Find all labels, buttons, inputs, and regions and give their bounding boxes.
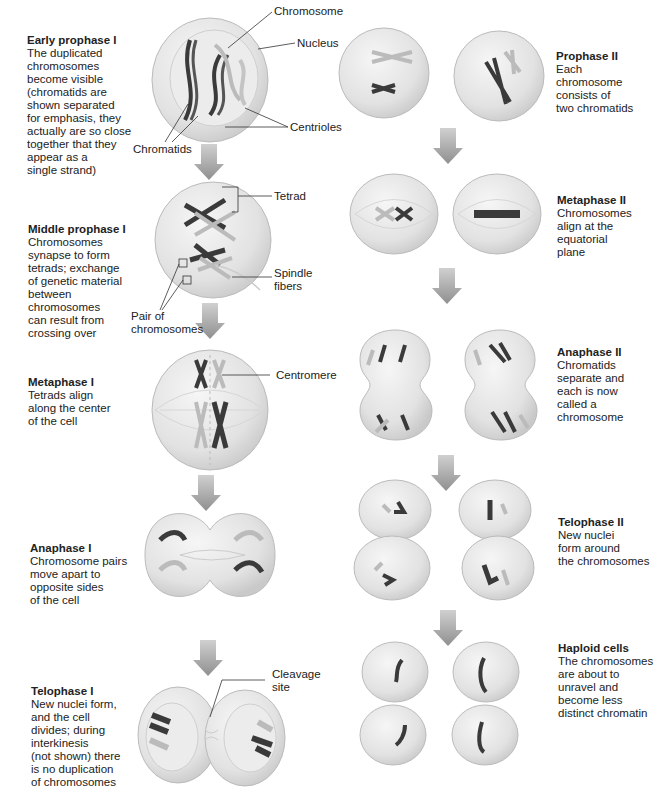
stage-description: The duplicated chromosomes become visibl… [27,47,152,177]
stage-anaphase-2: Anaphase II Chromatids separate and each… [557,346,662,424]
cell-early-prophase-1 [152,18,268,142]
label-chromatids: Chromatids [133,143,192,156]
stage-telophase-1: Telophase I New nuclei form, and the cel… [31,685,156,789]
cell-telophase-2-right [459,480,534,600]
stage-title: Haploid cells [558,642,663,655]
stage-title: Anaphase II [557,346,662,359]
stage-title: Middle prophase I [28,223,153,236]
stage-anaphase-1: Anaphase I Chromosome pairs move apart t… [30,542,155,607]
stage-title: Metaphase II [557,194,662,207]
label-centromere: Centromere [276,369,337,382]
stage-metaphase-1: Metaphase I Tetrads align along the cent… [28,376,153,428]
stage-description: New nuclei form, and the cell divides; d… [31,698,156,789]
label-spindle-fibers: Spindle fibers [274,267,312,293]
stage-metaphase-2: Metaphase II Chromosomes align at the eq… [557,194,662,259]
stage-telophase-2: Telophase II New nuclei form around the … [558,516,663,568]
cell-prophase-2-left [339,28,429,118]
stage-description: New nuclei form around the chromosomes [558,529,663,568]
stage-prophase-2: Prophase II Each chromosome consists of … [556,50,661,115]
cell-anaphase-2-right [465,330,537,440]
cell-telophase-2-left [354,480,431,600]
stage-haploid-cells: Haploid cells The chromosomes are about … [558,642,663,720]
label-chromosome: Chromosome [274,5,343,18]
stage-description: Chromosomes align at the equatorial plan… [557,207,662,259]
stage-description: The chromosomes are about to unravel and… [558,655,663,720]
stage-description: Chromosome pairs move apart to opposite … [30,555,155,607]
label-nucleus: Nucleus [297,37,339,50]
stage-title: Telophase I [31,685,156,698]
cell-metaphase-1 [152,350,268,470]
stage-title: Anaphase I [30,542,155,555]
stage-title: Telophase II [558,516,663,529]
cell-prophase-2-right [454,31,544,121]
label-pair-of-chromosomes: Pair of chromosomes [131,310,203,336]
cell-anaphase-1 [145,514,275,597]
stage-title: Early prophase I [27,34,152,47]
cell-metaphase-2-right [453,174,541,254]
cells-haploid [360,642,519,765]
label-tetrad: Tetrad [274,190,306,203]
stage-description: Each chromosome consists of two chromati… [556,63,661,115]
cell-anaphase-2-left [360,330,432,440]
stage-title: Metaphase I [28,376,153,389]
stage-description: Chromatids separate and each is now call… [557,359,662,424]
label-centrioles: Centrioles [290,121,342,134]
cell-telophase-1 [138,687,285,786]
label-cleavage-site: Cleavage site [272,668,321,694]
stage-description: Tetrads align along the center of the ce… [28,389,153,428]
cell-metaphase-2-left [350,174,438,254]
stage-title: Prophase II [556,50,661,63]
